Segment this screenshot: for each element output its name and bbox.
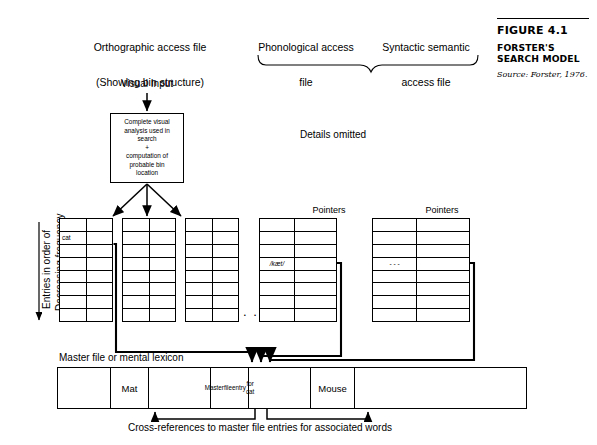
bin-row[interactable] (60, 258, 112, 271)
bin-cell[interactable] (213, 258, 239, 270)
access-table-row[interactable] (373, 271, 469, 284)
pointer-cell[interactable] (417, 219, 469, 231)
bin-row[interactable] (123, 258, 175, 271)
bin-cell[interactable] (186, 309, 213, 321)
bin-row[interactable] (123, 245, 175, 258)
access-code-cell[interactable] (373, 232, 417, 244)
syntactic-access-table[interactable]: - - - (372, 218, 470, 322)
master-file-empty-cell[interactable] (58, 368, 111, 408)
access-code-cell[interactable] (260, 232, 295, 244)
access-code-cell[interactable] (260, 283, 295, 295)
bin-cell[interactable] (87, 271, 113, 283)
bin-entry[interactable]: cat (60, 232, 87, 244)
bin-cell[interactable] (186, 219, 213, 231)
bin-cell[interactable] (87, 258, 113, 270)
phonological-access-table[interactable]: /kæt/ (259, 218, 337, 322)
bin-cell[interactable] (213, 296, 239, 308)
bin-cell[interactable] (213, 232, 239, 244)
bin-cell[interactable] (213, 309, 239, 321)
access-table-row[interactable] (260, 309, 336, 321)
pointer-cell[interactable] (417, 245, 469, 257)
master-file-entry[interactable]: Mouse (311, 368, 355, 408)
bin-cell[interactable] (123, 283, 150, 295)
bin-row[interactable] (186, 232, 238, 245)
bin-cell[interactable] (150, 296, 176, 308)
pointer-cell[interactable] (295, 296, 336, 308)
bin-row[interactable] (186, 219, 238, 232)
access-table-row[interactable] (373, 296, 469, 309)
access-code-cell[interactable] (373, 245, 417, 257)
orthographic-bin-3[interactable] (185, 218, 239, 322)
orthographic-bin-1[interactable]: cat (59, 218, 113, 322)
pointer-cell[interactable] (295, 258, 336, 270)
bin-cell[interactable] (123, 296, 150, 308)
bin-row[interactable] (123, 232, 175, 245)
access-code-cell[interactable] (260, 271, 295, 283)
bin-cell[interactable] (150, 283, 176, 295)
access-code-cell[interactable] (373, 219, 417, 231)
access-table-row[interactable] (373, 309, 469, 321)
pointer-cell[interactable] (295, 271, 336, 283)
access-table-row[interactable] (260, 271, 336, 284)
pointer-cell[interactable] (417, 258, 469, 270)
bin-row[interactable]: cat (60, 232, 112, 245)
bin-cell[interactable] (123, 271, 150, 283)
bin-cell[interactable] (150, 258, 176, 270)
access-code-entry[interactable]: /kæt/ (260, 258, 295, 270)
bin-row[interactable] (123, 283, 175, 296)
bin-cell[interactable] (60, 271, 87, 283)
bin-cell[interactable] (186, 296, 213, 308)
access-table-row[interactable] (260, 232, 336, 245)
pointer-cell[interactable] (295, 232, 336, 244)
pointer-cell[interactable] (417, 296, 469, 308)
master-file-row[interactable]: MatMasterfileentryfor catMouse (57, 367, 527, 409)
master-file-empty-cell[interactable] (149, 368, 211, 408)
bin-cell[interactable] (87, 283, 113, 295)
bin-cell[interactable] (150, 245, 176, 257)
bin-cell[interactable] (213, 283, 239, 295)
pointer-cell[interactable] (417, 232, 469, 244)
pointer-cell[interactable] (295, 283, 336, 295)
bin-cell[interactable] (123, 258, 150, 270)
bin-cell[interactable] (150, 232, 176, 244)
bin-cell[interactable] (87, 245, 113, 257)
access-table-row[interactable]: /kæt/ (260, 258, 336, 271)
orthographic-bin-2[interactable] (122, 218, 176, 322)
bin-row[interactable] (60, 296, 112, 309)
bin-cell[interactable] (186, 245, 213, 257)
access-code-cell[interactable] (373, 271, 417, 283)
bin-row[interactable] (60, 283, 112, 296)
bin-cell[interactable] (123, 309, 150, 321)
bin-cell[interactable] (150, 271, 176, 283)
access-code-cell[interactable] (260, 309, 295, 321)
access-table-row[interactable] (260, 283, 336, 296)
bin-row[interactable] (186, 309, 238, 321)
bin-cell[interactable] (213, 271, 239, 283)
access-table-row[interactable] (373, 283, 469, 296)
bin-row[interactable] (60, 309, 112, 321)
bin-cell[interactable] (150, 309, 176, 321)
pointer-cell[interactable] (295, 219, 336, 231)
bin-cell[interactable] (60, 219, 87, 231)
pointer-cell[interactable] (417, 283, 469, 295)
bin-row[interactable] (186, 258, 238, 271)
bin-cell[interactable] (186, 283, 213, 295)
pointer-cell[interactable] (295, 245, 336, 257)
access-table-row[interactable] (373, 219, 469, 232)
bin-row[interactable] (123, 219, 175, 232)
bin-row[interactable] (123, 309, 175, 321)
bin-row[interactable] (123, 271, 175, 284)
access-table-row[interactable]: - - - (373, 258, 469, 271)
bin-cell[interactable] (123, 232, 150, 244)
access-table-row[interactable] (260, 219, 336, 232)
bin-cell[interactable] (87, 309, 113, 321)
bin-cell[interactable] (87, 219, 113, 231)
access-table-row[interactable] (373, 232, 469, 245)
bin-cell[interactable] (123, 219, 150, 231)
bin-cell[interactable] (60, 245, 87, 257)
access-code-cell[interactable] (260, 245, 295, 257)
master-file-empty-cell[interactable] (355, 368, 435, 408)
access-code-cell[interactable] (373, 283, 417, 295)
pointer-cell[interactable] (417, 271, 469, 283)
bin-cell[interactable] (60, 309, 87, 321)
